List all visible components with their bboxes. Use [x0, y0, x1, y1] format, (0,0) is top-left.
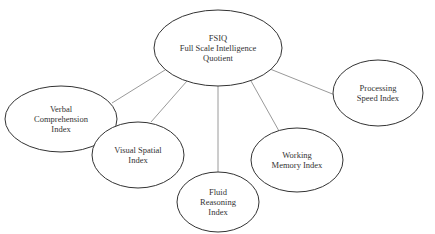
node-label-fluid-reasoning-index: FluidReasoningIndex [200, 187, 236, 217]
node-label-line: Reasoning [200, 197, 236, 207]
node-label-line: Comprehension [34, 114, 88, 124]
node-label-line: Speed Index [357, 93, 399, 103]
node-label-line: FSIQ [180, 33, 256, 43]
node-label-line: Full Scale Intelligence [180, 43, 256, 53]
connector-line [151, 81, 187, 122]
node-label-processing-speed-index: ProcessingSpeed Index [357, 83, 399, 103]
node-label-working-memory-index: WorkingMemory Index [272, 150, 323, 170]
connector-line [270, 69, 335, 95]
node-label-line: Memory Index [272, 160, 323, 170]
node-label-line: Visual Spatial [114, 145, 161, 155]
node-label-line: Fluid [200, 187, 236, 197]
node-label-line: Processing [357, 83, 399, 93]
node-label-line: Index [34, 124, 88, 134]
node-label-line: Verbal [34, 104, 88, 114]
node-label-line: Index [200, 207, 236, 217]
wisc-index-diagram: FSIQFull Scale IntelligenceQuotientVerba… [0, 0, 435, 234]
connector-line [251, 81, 279, 131]
node-label-line: Working [272, 150, 323, 160]
node-label-verbal-comprehension-index: VerbalComprehensionIndex [34, 104, 88, 134]
node-label-line: Quotient [180, 53, 256, 63]
connector-line [112, 70, 165, 103]
node-label-visual-spatial-index: Visual SpatialIndex [114, 145, 161, 165]
node-label-line: Index [114, 155, 161, 165]
node-label-fsiq: FSIQFull Scale IntelligenceQuotient [180, 33, 256, 63]
